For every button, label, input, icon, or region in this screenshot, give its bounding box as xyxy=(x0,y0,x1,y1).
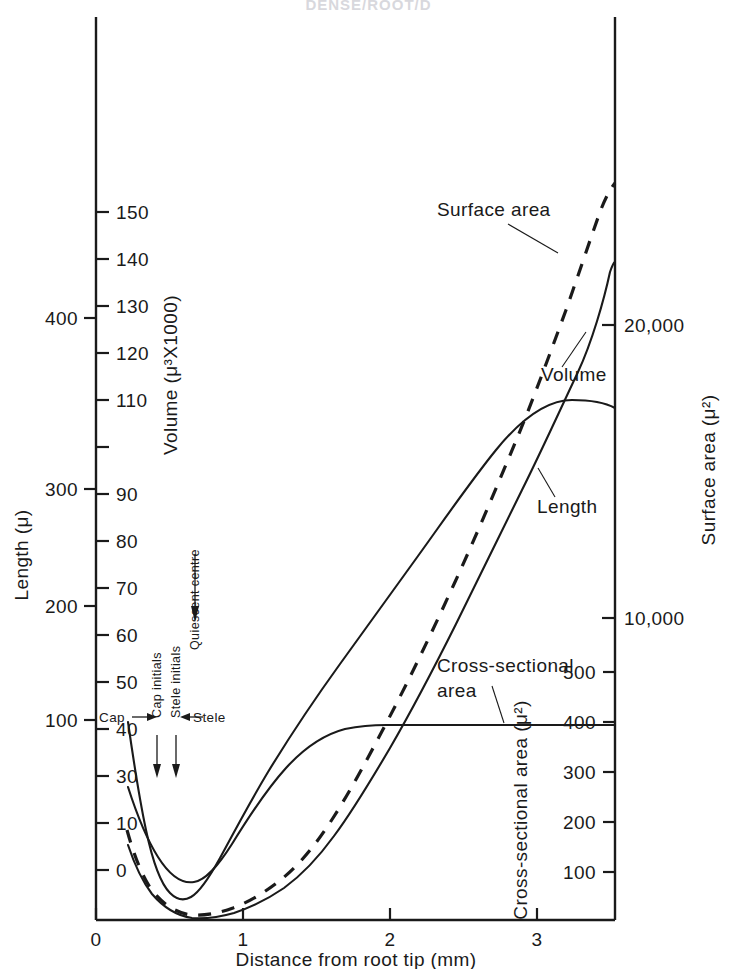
volume-tick-80: 80 xyxy=(116,531,138,552)
annotation-stele-initials: Stele initials xyxy=(169,646,183,778)
annotation-stele: Stele xyxy=(180,710,226,725)
x-axis-title: Distance from root tip (mm) xyxy=(236,949,477,969)
volume-axis-ticklabels: 150 140 130 120 110 90 80 70 60 50 40 30… xyxy=(116,202,149,881)
curve-label-surface-area: Surface area xyxy=(437,199,551,220)
csa-tick-100: 100 xyxy=(563,862,596,883)
label-volume-group: Volume xyxy=(541,332,607,385)
surface-area-tick-10000: 10,000 xyxy=(624,608,685,629)
surface-area-axis-ticklabels: 20,000 10,000 xyxy=(624,315,685,629)
curve-label-cross-sectional-area-line1: Cross-sectional xyxy=(437,655,574,676)
csa-tick-300: 300 xyxy=(563,762,596,783)
volume-tick-70: 70 xyxy=(116,578,138,599)
length-tick-100: 100 xyxy=(45,710,78,731)
length-axis-ticklabels: 100 200 300 400 xyxy=(45,308,78,731)
label-surface-area-group: Surface area xyxy=(437,199,558,253)
csa-tick-400: 400 xyxy=(563,712,596,733)
volume-axis-ticks xyxy=(96,212,109,870)
x-axis-ticklabels: 0 1 2 3 xyxy=(91,929,543,950)
annotation-cap-initials-label: Cap initials xyxy=(150,652,164,718)
length-tick-200: 200 xyxy=(45,596,78,617)
volume-tick-90: 90 xyxy=(116,484,138,505)
length-tick-300: 300 xyxy=(45,479,78,500)
volume-tick-130: 130 xyxy=(116,296,149,317)
volume-tick-120: 120 xyxy=(116,343,149,364)
figure-root: DENSE/ROOT/D 100 200 300 400 Length (μ) xyxy=(0,0,737,969)
length-axis-title: Length (μ) xyxy=(11,510,32,601)
x-axis-ticks xyxy=(96,908,537,920)
length-axis-ticks xyxy=(84,318,96,720)
cross-sectional-axis-ticklabels: 500 400 300 200 100 xyxy=(563,662,596,883)
volume-tick-140: 140 xyxy=(116,249,149,270)
volume-tick-0: 0 xyxy=(116,860,127,881)
curve-label-length: Length xyxy=(537,496,598,517)
x-tick-2: 2 xyxy=(385,929,396,950)
surface-area-axis-title: Surface area (μ²) xyxy=(698,395,719,546)
x-tick-0: 0 xyxy=(91,929,102,950)
annotation-quiescent-centre: Quiescent centre xyxy=(188,549,202,650)
axis-frame xyxy=(96,17,615,920)
cap-initials-arrow-icon xyxy=(153,764,161,778)
stele-initials-arrow-icon xyxy=(172,764,180,778)
cross-sectional-axis-ticks xyxy=(603,672,615,872)
volume-axis-title: Volume (μ³X1000) xyxy=(160,295,181,455)
volume-tick-110: 110 xyxy=(116,390,148,411)
x-tick-1: 1 xyxy=(238,929,249,950)
volume-tick-150: 150 xyxy=(116,202,149,223)
curve-label-volume: Volume xyxy=(541,364,607,385)
csa-tick-200: 200 xyxy=(563,812,596,833)
annotation-stele-initials-label: Stele initials xyxy=(169,646,183,718)
surface-area-tick-20000: 20,000 xyxy=(624,315,685,336)
chart-canvas: 100 200 300 400 Length (μ) 150 140 xyxy=(0,0,737,969)
label-length-group: Length xyxy=(537,468,598,517)
volume-tick-60: 60 xyxy=(116,625,138,646)
annotation-stele-label: Stele xyxy=(193,710,226,725)
length-tick-400: 400 xyxy=(45,308,78,329)
x-tick-3: 3 xyxy=(532,929,543,950)
annotation-cap-label: Cap xyxy=(99,710,125,725)
label-cross-sectional-area-group: Cross-sectional area xyxy=(437,655,574,723)
annotation-cap-initials: Cap initials xyxy=(150,652,164,778)
volume-tick-50: 50 xyxy=(116,672,138,693)
cross-sectional-axis-title: Cross-sectional area (μ²) xyxy=(510,700,531,919)
curve-label-cross-sectional-area-line2: area xyxy=(437,680,477,701)
